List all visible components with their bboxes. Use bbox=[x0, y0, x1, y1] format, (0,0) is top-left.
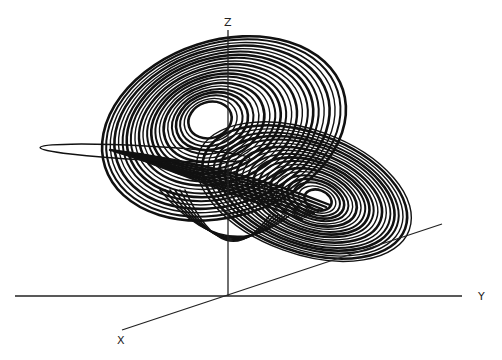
x-axis-line bbox=[122, 224, 442, 330]
y-axis-label: Y bbox=[478, 291, 485, 302]
lorenz-attractor-plot bbox=[0, 0, 502, 360]
attractor-trajectory bbox=[40, 6, 431, 288]
x-axis-label: X bbox=[117, 335, 125, 346]
z-axis-label: Z bbox=[224, 17, 232, 28]
